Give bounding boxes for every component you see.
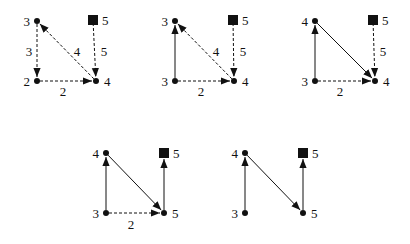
edge-weight-label: 5 — [380, 44, 387, 59]
node-value-label: 4 — [104, 74, 111, 89]
edge-weight-label: 2 — [128, 217, 135, 232]
node-value-label: 4 — [302, 14, 309, 29]
node-value-label: 3 — [302, 74, 309, 89]
node-dot — [312, 18, 318, 24]
diagram-canvas: 345235244523534524534245354535 — [0, 0, 410, 244]
node-dot — [93, 78, 99, 84]
dashed-edge-arrow — [373, 23, 375, 77]
dashed-edge-arrow — [93, 23, 96, 77]
node-value-label: 3 — [232, 206, 239, 221]
node-value-label: 4 — [383, 74, 390, 89]
solid-edge-arrow — [108, 155, 161, 210]
node-dot — [172, 78, 178, 84]
source-node-square — [368, 15, 378, 25]
node-dot — [300, 210, 306, 216]
node-dot — [312, 78, 318, 84]
source-node-square — [88, 15, 98, 25]
dashed-edge-arrow — [178, 24, 232, 79]
node-dot — [172, 18, 178, 24]
node-dot — [34, 18, 40, 24]
node-value-label: 2 — [24, 74, 31, 89]
edge-weight-label: 2 — [60, 84, 67, 99]
node-value-label: 5 — [311, 206, 318, 221]
solid-edge-arrow — [247, 155, 300, 210]
dashed-edge-arrow — [233, 23, 234, 77]
node-dot — [231, 78, 237, 84]
diagrams-root: 345235244523534524534245354535 — [24, 13, 391, 232]
edge-weight-label: 3 — [26, 44, 33, 59]
graph-diagram-2: 4523534 — [162, 13, 250, 99]
node-dot — [161, 210, 167, 216]
node-value-label: 5 — [312, 146, 319, 161]
solid-edge-arrow — [317, 23, 372, 78]
node-dot — [242, 150, 248, 156]
graph-diagram-3: 524534 — [302, 13, 391, 99]
node-value-label: 5 — [382, 13, 389, 28]
node-value-label: 4 — [242, 74, 249, 89]
node-value-label: 3 — [24, 14, 31, 29]
node-value-label: 5 — [172, 206, 179, 221]
source-node-square — [298, 148, 308, 158]
node-value-label: 3 — [93, 206, 100, 221]
graph-diagram-1: 34523524 — [24, 13, 112, 99]
source-node-square — [228, 15, 238, 25]
source-node-square — [159, 148, 169, 158]
node-value-label: 5 — [242, 13, 249, 28]
node-value-label: 5 — [173, 146, 180, 161]
edge-weight-label: 5 — [101, 44, 108, 59]
edge-weight-label: 2 — [198, 84, 205, 99]
dashed-edge-arrow — [40, 24, 94, 79]
edge-weight-label: 4 — [213, 44, 220, 59]
graph-diagram-5: 4535 — [232, 146, 319, 221]
edge-weight-label: 2 — [337, 84, 344, 99]
node-dot — [103, 210, 109, 216]
node-dot — [242, 210, 248, 216]
node-dot — [34, 78, 40, 84]
graph-diagram-4: 24535 — [93, 146, 180, 232]
node-value-label: 3 — [162, 14, 169, 29]
edge-weight-label: 5 — [240, 44, 247, 59]
node-value-label: 4 — [232, 146, 239, 161]
node-value-label: 3 — [162, 74, 169, 89]
node-value-label: 5 — [102, 13, 109, 28]
node-dot — [103, 150, 109, 156]
node-value-label: 4 — [93, 146, 100, 161]
edge-weight-label: 4 — [74, 44, 81, 59]
node-dot — [372, 78, 378, 84]
